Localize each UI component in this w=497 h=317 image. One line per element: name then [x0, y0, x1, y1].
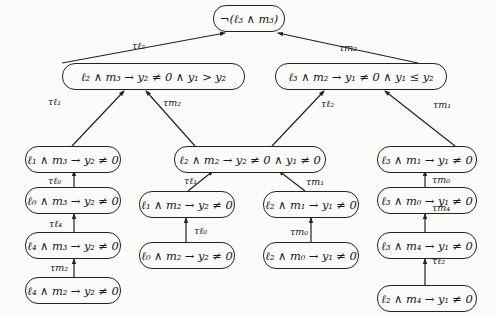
edge-label-n12-n8: τm₀ [290, 226, 308, 237]
edge-n3-n1 [72, 91, 124, 146]
node-n14: ℓ₄ ∧ m₂ → y₂ ≠ 0 [25, 277, 121, 304]
node-n2: ℓ₃ ∧ m₂ → y₁ ≠ 0 ∧ y₁ ≤ y₂ [275, 63, 447, 90]
edge-label-n4-n1: τm₂ [163, 97, 181, 108]
edge-label-n5-n2: τm₁ [433, 99, 451, 110]
node-n5: ℓ₃ ∧ m₁ → y₁ ≠ 0 [377, 146, 477, 173]
node-n7: ℓ₁ ∧ m₂ → y₂ ≠ 0 [139, 191, 235, 218]
node-n8: ℓ₂ ∧ m₁ → y₁ ≠ 0 [263, 191, 359, 218]
node-n10: ℓ₄ ∧ m₃ → y₂ ≠ 0 [25, 232, 121, 259]
node-n3: ℓ₁ ∧ m₃ → y₂ ≠ 0 [25, 146, 121, 173]
edge-label-n9-n5: τm₀ [432, 174, 450, 185]
edge-label-n1-root: τℓ₂ [132, 40, 145, 51]
edge-label-n14-n10: τm₂ [50, 262, 68, 273]
node-n9: ℓ₃ ∧ m₀ → y₁ ≠ 0 [377, 187, 477, 214]
edge-label-n3-n1: τℓ₁ [48, 96, 61, 107]
node-n6: ℓ₀ ∧ m₃ → y₂ ≠ 0 [25, 187, 121, 214]
edge-n8-n4 [279, 171, 305, 191]
node-n12: ℓ₂ ∧ m₀ → y₁ ≠ 0 [263, 242, 359, 269]
edge-label-n11-n7: τℓ₀ [194, 225, 207, 236]
node-root: ¬(ℓ₃ ∧ m₃) [213, 5, 285, 32]
edge-label-n4-n2: τℓ₂ [321, 98, 334, 109]
node-n11: ℓ₀ ∧ m₂ → y₂ ≠ 0 [139, 242, 235, 269]
edge-label-n7-n4: τℓ₁ [184, 175, 197, 186]
edge-n4-n2 [272, 91, 324, 146]
edge-label-n6-n3: τℓ₀ [48, 175, 61, 186]
node-n1: ℓ₂ ∧ m₃ → y₂ ≠ 0 ∧ y₁ > y₂ [62, 63, 245, 90]
edge-label-n2-root: τm₂ [339, 42, 357, 53]
node-n4: ℓ₂ ∧ m₂ → y₂ ≠ 0 ∧ y₁ ≠ 0 [174, 146, 326, 173]
edge-label-n15-n13: τℓ₂ [432, 255, 445, 266]
edge-label-n10-n6: τℓ₄ [49, 218, 62, 229]
node-n15: ℓ₂ ∧ m₄ → y₁ ≠ 0 [377, 285, 477, 312]
edge-label-n8-n4: τm₁ [306, 176, 324, 187]
node-n13: ℓ₃ ∧ m₄ → y₁ ≠ 0 [377, 232, 477, 259]
edge-label-n13-n9: τm₄ [432, 202, 450, 213]
